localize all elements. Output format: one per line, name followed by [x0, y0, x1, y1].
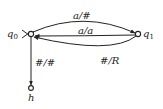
state-h: [29, 86, 34, 91]
transition-q1-q0-aa-label: a/a: [78, 25, 93, 36]
transition-q1-q0-R-label: #/R: [100, 55, 120, 66]
transition-q0-q1-label: a/#: [73, 10, 91, 21]
transition-q0-h-label: #/#: [35, 57, 55, 68]
state-q0-label: q0: [7, 28, 18, 41]
state-h-label: h: [28, 92, 34, 103]
state-q1: [135, 31, 140, 36]
state-q0: [28, 31, 33, 36]
transition-q1-q0-R: [34, 36, 136, 46]
state-diagram: q0 q1 h a/# a/a #/R #/#: [0, 0, 163, 109]
state-q1-label: q1: [143, 28, 154, 41]
